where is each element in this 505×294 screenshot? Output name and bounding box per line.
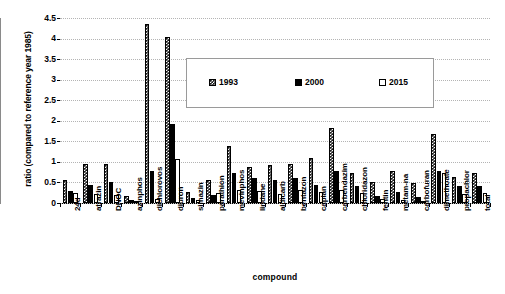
bar-carbofuran-2000 xyxy=(416,197,421,203)
bar-group xyxy=(268,18,283,203)
y-tick-label: 3.5 xyxy=(22,55,56,64)
x-tick-mark xyxy=(265,203,266,207)
bar-caplan-1993 xyxy=(309,158,314,203)
bar-bentazon-2000 xyxy=(293,178,298,203)
x-tick-mark xyxy=(490,203,491,207)
y-tick-label: 2 xyxy=(22,116,56,125)
bar-group xyxy=(288,18,303,203)
x-tick-mark xyxy=(429,203,430,207)
bar-lindane-2000 xyxy=(252,178,257,203)
x-axis-title: compound xyxy=(60,272,490,282)
bar-mevinphos-2000 xyxy=(232,173,237,203)
y-tick-mark xyxy=(57,59,60,60)
bar-carbendazim-1993 xyxy=(329,128,334,203)
bar-group xyxy=(124,18,139,203)
bar-total-2000 xyxy=(477,186,482,203)
bar-24d-1993 xyxy=(63,180,68,203)
y-axis-line xyxy=(0,18,1,204)
legend-swatch-2000-icon xyxy=(295,79,302,86)
bar-azinphos-1993 xyxy=(124,196,129,203)
x-tick-mark xyxy=(224,203,225,207)
x-tick-mark xyxy=(60,203,61,207)
x-tick-label-diuron: diuron xyxy=(176,187,185,211)
bar-group xyxy=(472,18,487,203)
legend: 1993 2000 2015 xyxy=(186,58,434,108)
x-tick-mark xyxy=(408,203,409,207)
bar-group xyxy=(83,18,98,203)
bar-diuron-1993 xyxy=(165,37,170,204)
x-tick-mark xyxy=(183,203,184,207)
legend-swatch-1993-icon xyxy=(209,79,216,86)
bar-group xyxy=(247,18,262,203)
bar-fentin-2000 xyxy=(375,196,380,203)
bar-group xyxy=(165,18,180,203)
y-tick-label: 0 xyxy=(22,199,56,208)
bar-metam-na-2000 xyxy=(396,192,401,204)
legend-item-2000: 2000 xyxy=(295,77,324,87)
bar-simazin-1993 xyxy=(186,192,191,204)
x-tick-mark xyxy=(470,203,471,207)
bar-group xyxy=(63,18,78,203)
bar-chart: ratio (compared to reference year 1985) … xyxy=(0,0,505,294)
bar-24d-2000 xyxy=(68,191,73,203)
bar-simazin-2000 xyxy=(191,198,196,203)
bar-group xyxy=(309,18,324,203)
x-tick-mark xyxy=(326,203,327,207)
x-tick-label-fentin: fentin xyxy=(381,190,390,211)
x-tick-mark xyxy=(285,203,286,207)
y-tick-label: 3 xyxy=(22,75,56,84)
bar-chloridazon-2000 xyxy=(355,186,360,203)
bar-dichlorovos-1993 xyxy=(145,24,150,203)
bar-mevinphos-1993 xyxy=(227,146,232,203)
legend-label-2015: 2015 xyxy=(389,77,408,87)
y-tick-mark xyxy=(57,80,60,81)
bar-group xyxy=(104,18,119,203)
x-tick-mark xyxy=(80,203,81,207)
bar-aldicarb-2000 xyxy=(273,180,278,203)
bar-azinphos-2000 xyxy=(129,200,134,203)
x-tick-label-atrazin: atrazin xyxy=(94,186,103,211)
legend-item-1993: 1993 xyxy=(209,77,238,87)
bar-parathion-2000 xyxy=(211,195,216,203)
legend-label-2000: 2000 xyxy=(305,77,324,87)
bar-metam-na-1993 xyxy=(390,171,395,203)
x-tick-mark xyxy=(121,203,122,207)
bar-total-1993 xyxy=(472,173,477,203)
x-tick-mark xyxy=(347,203,348,207)
bar-dimethoate-2000 xyxy=(437,171,442,203)
bar-propachlor-1993 xyxy=(452,177,457,203)
x-tick-mark xyxy=(388,203,389,207)
x-tick-label-DNOC: DNOC xyxy=(114,188,123,211)
x-tick-label-caplan: caplan xyxy=(319,186,328,211)
x-tick-mark xyxy=(162,203,163,207)
bar-diuron-2000 xyxy=(170,124,175,203)
bar-DNOC-1993 xyxy=(104,164,109,203)
x-tick-mark xyxy=(203,203,204,207)
bar-bentazon-1993 xyxy=(288,164,293,203)
y-tick-mark xyxy=(57,18,60,19)
bar-dimethoate-1993 xyxy=(431,134,436,203)
bar-chloridazon-1993 xyxy=(350,173,355,203)
y-tick-label: 4 xyxy=(22,34,56,43)
y-tick-mark xyxy=(57,100,60,101)
bar-group xyxy=(370,18,385,203)
x-tick-mark xyxy=(367,203,368,207)
y-tick-mark xyxy=(57,162,60,163)
x-tick-mark xyxy=(142,203,143,207)
bar-carbendazim-2000 xyxy=(334,171,339,203)
bar-group xyxy=(186,18,201,203)
bar-atrazin-2000 xyxy=(88,185,93,204)
bar-fentin-1993 xyxy=(370,182,375,203)
x-tick-mark xyxy=(244,203,245,207)
y-tick-mark xyxy=(57,141,60,142)
bar-aldicarb-1993 xyxy=(268,165,273,203)
legend-swatch-2015-icon xyxy=(379,79,386,86)
y-tick-label: 4.5 xyxy=(22,14,56,23)
y-tick-label: 1.5 xyxy=(22,137,56,146)
bar-carbofuran-1993 xyxy=(411,183,416,203)
y-tick-label: 0.5 xyxy=(22,178,56,187)
x-tick-mark xyxy=(101,203,102,207)
bar-parathion-1993 xyxy=(206,180,211,203)
y-tick-mark xyxy=(57,182,60,183)
legend-item-2015: 2015 xyxy=(379,77,408,87)
